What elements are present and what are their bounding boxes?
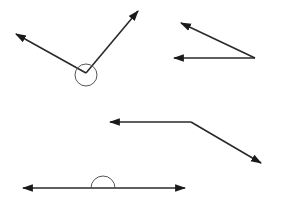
reflex-angle — [16, 11, 138, 86]
ray-arrow-1 — [181, 23, 255, 58]
acute-angle — [174, 23, 255, 58]
straight-angle — [23, 176, 185, 188]
obtuse-angle — [110, 122, 261, 163]
diagram-svg — [0, 0, 284, 208]
angles-layer — [16, 11, 261, 188]
ray-arrow-1 — [16, 34, 86, 73]
angle-arc-marker — [75, 64, 97, 86]
angles-diagram — [0, 0, 284, 208]
angle-arc-marker — [91, 176, 115, 188]
ray-arrow-2 — [86, 11, 138, 73]
ray-arrow-2 — [191, 122, 261, 163]
